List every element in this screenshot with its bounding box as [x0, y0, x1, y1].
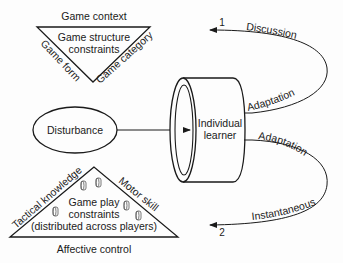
player-icon — [53, 207, 58, 216]
adaptation-lower-label: Adaptation — [258, 129, 311, 158]
top-triangle: Game context Game structure constraints … — [37, 10, 155, 85]
player-icon — [96, 178, 101, 187]
motor-skill-label: Motor skill — [117, 174, 161, 213]
diagram-svg: Game context Game structure constraints … — [0, 0, 343, 263]
game-structure-label-line1: Game structure — [58, 31, 131, 43]
game-play-label-line1: Game play — [69, 196, 121, 208]
player-icon — [81, 181, 86, 190]
affective-control-label: Affective control — [57, 243, 132, 255]
individual-learner-cylinder: Individual learner — [170, 78, 245, 182]
player-icon — [136, 211, 141, 220]
bottom-triangle: Tactical knowledge Motor skill Game play… — [9, 164, 178, 255]
loop-1-number: 1 — [219, 17, 225, 28]
game-play-label-line2: constraints — [69, 208, 120, 220]
disturbance-label: Disturbance — [47, 124, 103, 136]
diagram-canvas: Game context Game structure constraints … — [0, 0, 343, 263]
learner-label-line1: Individual — [198, 117, 242, 129]
learner-label-line2: learner — [204, 129, 237, 141]
game-play-label-line3: (distributed across players) — [31, 220, 157, 232]
adaptation-upper-label: Adaptation — [246, 86, 297, 113]
game-context-label: Game context — [61, 10, 126, 22]
game-structure-label-line2: constraints — [69, 43, 120, 55]
player-icon — [124, 201, 129, 210]
disturbance-node: Disturbance — [33, 107, 187, 153]
loop-2-number: 2 — [219, 227, 225, 238]
discussion-label: Discussion — [246, 20, 299, 41]
